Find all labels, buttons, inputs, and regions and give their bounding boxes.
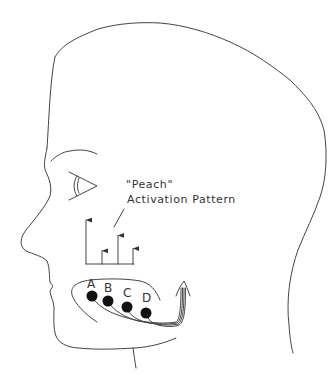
- caption-pointer: [114, 209, 124, 227]
- electrode-label-d: D: [142, 291, 151, 305]
- electrode-b: [103, 296, 114, 307]
- activation-pattern-chart: [86, 220, 134, 264]
- electrode-d: [141, 308, 152, 319]
- electrode-label-a: A: [87, 277, 96, 291]
- eyebrow: [51, 150, 97, 161]
- electrode-a: [87, 291, 98, 302]
- caption-line1: "Peach": [126, 178, 173, 191]
- electrode-c: [122, 302, 133, 313]
- neck-line: [133, 348, 136, 368]
- electrode-label-b: B: [104, 281, 112, 295]
- caption-line2: Activation Pattern: [127, 193, 236, 206]
- eye: [69, 172, 97, 200]
- electrode-label-c: C: [123, 286, 131, 300]
- peach-activation-diagram: "Peach" Activation Pattern ABCD: [0, 0, 335, 380]
- head-outline: [47, 23, 326, 353]
